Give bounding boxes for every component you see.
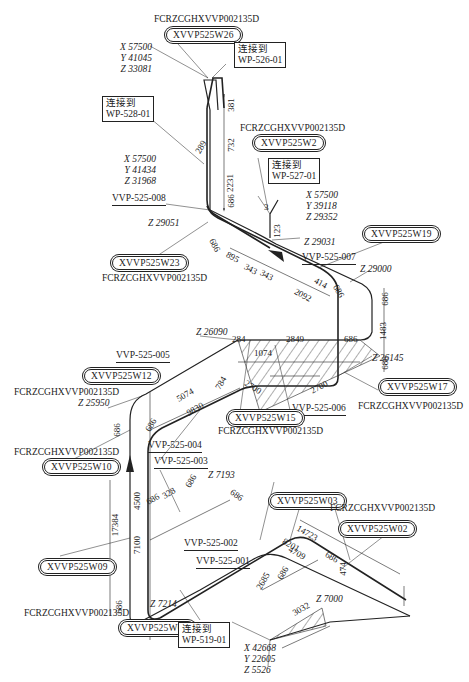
elevation-7193: Z 7193 (208, 470, 235, 481)
weld-spec-w26: FCRZCGHXVVP002135D (154, 14, 259, 25)
line-number-002[interactable]: VVP-525-002 (184, 538, 238, 551)
connection-title: 连接到 (182, 624, 226, 635)
elevation-29031: Z 29031 (304, 237, 335, 248)
elevation-25950: Z 25950 (78, 398, 109, 409)
coordinate-527: X 57500 Y 39118 Z 29352 (306, 190, 338, 223)
coord-x: X 42668 (244, 643, 276, 654)
dim-3: 3 (264, 202, 269, 212)
weld-tag-w23[interactable]: XVVP525W23 (112, 256, 187, 270)
coord-z: Z 31968 (124, 176, 156, 187)
line-number-004[interactable]: VVP-525-004 (148, 440, 202, 453)
coord-y: Y 41045 (120, 53, 152, 64)
connection-target: WP-528-01 (106, 109, 150, 120)
coord-z: Z 5526 (244, 665, 276, 676)
weld-spec-w10: FCRZCGHXVVP002135D (14, 447, 119, 458)
coord-y: Y 39118 (306, 201, 338, 212)
connection-box-526[interactable]: 连接到 WP-526-01 (234, 42, 286, 68)
dim-123: 123 (272, 224, 282, 238)
elevation-29000: Z 29000 (360, 264, 391, 275)
weld-spec-w12: FCRZCGHXVVP002135D (14, 387, 119, 398)
line-number-003[interactable]: VVP-525-003 (154, 456, 208, 469)
coordinate-528: X 57500 Y 41434 Z 31968 (124, 154, 156, 187)
weld-tag-w26[interactable]: XVVP525W26 (166, 28, 241, 42)
weld-tag-w02[interactable]: XVVP525W02 (340, 522, 415, 536)
connection-box-527[interactable]: 连接到 WP-527-01 (268, 158, 320, 184)
dim-686-top: 686 (226, 194, 236, 208)
connection-box-528[interactable]: 连接到 WP-528-01 (102, 96, 154, 122)
line-number-005[interactable]: VVP-525-005 (116, 350, 170, 363)
weld-tag-w24[interactable]: XVVP525W2 (254, 136, 324, 150)
elevation-26090: Z 26090 (196, 327, 227, 338)
connection-target: WP-527-01 (272, 171, 316, 182)
elevation-29051: Z 29051 (148, 218, 179, 229)
weld-tag-w17[interactable]: XVVP525W17 (380, 380, 455, 394)
coord-y: Y 22605 (244, 654, 276, 665)
weld-spec-w15: FCRZCGHXVVP002135D (218, 426, 323, 437)
dim-732: 732 (226, 138, 236, 152)
line-number-001[interactable]: VVP-525-001 (196, 556, 250, 569)
connection-target: WP-526-01 (238, 55, 282, 66)
dim-381: 381 (226, 98, 236, 112)
weld-tag-w15[interactable]: XVVP525W15 (228, 411, 303, 425)
weld-spec-w03: FCRZCGHXVVP002135D (330, 503, 435, 514)
dim-4500: 4500 (132, 492, 142, 510)
coord-x: X 57500 (120, 42, 152, 53)
line-number-008[interactable]: VVP-525-008 (112, 193, 166, 206)
dim-17384: 17384 (110, 514, 120, 537)
elevation-7214: Z 7214 (150, 599, 177, 610)
dim-2231: 2231 (225, 174, 235, 192)
weld-tag-w12[interactable]: XVVP525W12 (84, 369, 159, 383)
dim-284: 284 (232, 334, 246, 344)
weld-spec-w17: FCRZCGHXVVP002135D (358, 401, 463, 412)
dim-686-m: 686 (344, 334, 358, 344)
connection-target: WP-519-01 (182, 635, 226, 646)
dim-686-lv: 686 (112, 423, 122, 437)
dim-2849: 2849 (286, 334, 304, 344)
coord-y: Y 41434 (124, 165, 156, 176)
weld-tag-w10[interactable]: XVVP525W10 (44, 460, 119, 474)
coord-x: X 57500 (124, 154, 156, 165)
coord-z: Z 33081 (120, 64, 152, 75)
weld-spec-w23: FCRZCGHXVVP002135D (102, 273, 207, 284)
dim-7100: 7100 (132, 536, 142, 554)
line-number-007[interactable]: VVP-525-007 (302, 252, 356, 265)
coord-z: Z 29352 (306, 212, 338, 223)
dim-1074: 1074 (254, 348, 272, 358)
weld-tag-w19[interactable]: XVVP525W19 (364, 227, 439, 241)
weld-tag-w09[interactable]: XVVP525W09 (40, 560, 115, 574)
connection-title: 连接到 (272, 160, 316, 171)
connection-title: 连接到 (106, 98, 150, 109)
weld-spec-w09: FCRZCGHXVVP002135D (24, 608, 129, 619)
isometric-drawing: FCRZCGHXVVP002135D XVVP525W26 连接到 WP-526… (0, 0, 469, 682)
coordinate-top: X 57500 Y 41045 Z 33081 (120, 42, 152, 75)
dim-1483: 1483 (378, 322, 388, 340)
connection-box-519[interactable]: 连接到 WP-519-01 (178, 622, 230, 648)
elevation-7000: Z 7000 (316, 594, 343, 605)
connection-title: 连接到 (238, 44, 282, 55)
dim-686-r1: 686 (380, 292, 390, 306)
coordinate-bottom: X 42668 Y 22605 Z 5526 (244, 643, 276, 676)
dim-474: 474 (338, 562, 348, 576)
weld-spec-w24: FCRZCGHXVVP002135D (240, 123, 345, 134)
elevation-26145: Z 26145 (372, 353, 403, 364)
coord-x: X 57500 (306, 190, 338, 201)
